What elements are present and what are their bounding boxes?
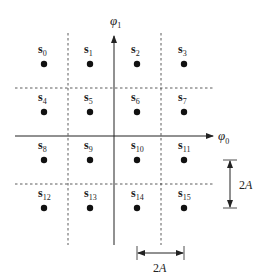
constellation-diagram: φ1 φ0 s0s1s2s3s4s5s6s7s8s9s10s11s12s13s1… [0,0,261,279]
point-dot [41,205,47,211]
point-label: s2 [131,42,140,58]
point-dot [134,157,140,163]
constellation-point: s1 [84,42,93,67]
constellation-point: s15 [178,186,191,211]
point-dot [87,109,93,115]
constellation-point: s4 [38,90,47,115]
point-label: s7 [178,90,187,106]
point-dot [41,61,47,67]
point-dot [134,61,140,67]
point-label: s12 [38,186,51,202]
point-label: s9 [84,138,93,154]
point-label: s4 [38,90,47,106]
constellation-point: s0 [38,42,47,67]
axis-label-phi1: φ1 [110,13,121,30]
point-label: s13 [84,186,97,202]
constellation-point: s6 [131,90,140,115]
point-dot [87,157,93,163]
dimension-label-vertical: 2A [239,178,253,192]
point-dot [87,61,93,67]
horizontal-spacing-dimension: 2A [137,246,184,275]
point-label: s6 [131,90,140,106]
constellation-point: s8 [38,138,47,163]
constellation-point: s12 [38,186,51,211]
constellation-point: s3 [178,42,187,67]
point-dot [41,157,47,163]
point-dot [181,61,187,67]
dimension-label-horizontal: 2A [153,261,167,275]
point-label: s8 [38,138,47,154]
point-label: s11 [178,138,190,154]
point-label: s1 [84,42,93,58]
point-label: s14 [131,186,144,202]
constellation-point: s5 [84,90,93,115]
point-dot [134,205,140,211]
vertical-spacing-dimension: 2A [223,160,253,208]
constellation-point: s13 [84,186,97,211]
constellation-point: s9 [84,138,93,163]
point-label: s0 [38,42,47,58]
point-label: s3 [178,42,187,58]
point-dot [181,109,187,115]
constellation-point: s11 [178,138,190,163]
point-dot [181,205,187,211]
axis-label-phi0: φ0 [218,128,229,146]
point-dot [134,109,140,115]
point-dot [181,157,187,163]
point-dot [41,109,47,115]
point-label: s5 [84,90,93,106]
point-dot [87,205,93,211]
constellation-point: s14 [131,186,144,211]
point-label: s15 [178,186,191,202]
constellation-point: s2 [131,42,140,67]
constellation-point: s10 [131,138,144,163]
constellation-point: s7 [178,90,187,115]
point-label: s10 [131,138,144,154]
